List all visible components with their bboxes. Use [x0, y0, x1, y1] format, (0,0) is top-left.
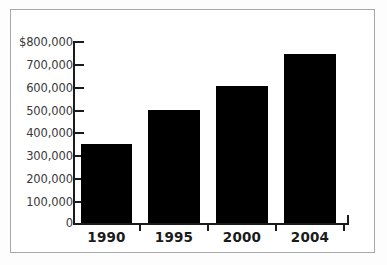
bar-2000 — [216, 86, 268, 223]
y-axis-label-100000: 100,000 — [0, 197, 73, 208]
y-tick-700000 — [75, 64, 84, 66]
y-axis-label-500000: 500,000 — [0, 106, 73, 117]
x-tick-2 — [207, 225, 209, 231]
y-tick-500000 — [75, 110, 84, 112]
y-tick-600000 — [75, 87, 84, 89]
chart-figure: $800,000 700,000 600,000 500,000 400,000… — [0, 0, 387, 265]
y-tick-400000 — [75, 132, 84, 134]
x-tick-1 — [139, 225, 141, 231]
y-axis-label-400000: 400,000 — [0, 128, 73, 139]
bar-chart-plot-area: $800,000 700,000 600,000 500,000 400,000… — [0, 0, 387, 265]
y-axis-label-800000: $800,000 — [0, 37, 73, 48]
x-tick-3 — [275, 225, 277, 231]
y-tick-800000 — [75, 41, 84, 43]
x-tick-4 — [343, 225, 345, 231]
bar-1995 — [148, 110, 200, 223]
bar-2004 — [284, 54, 336, 223]
x-axis-label-2000: 2000 — [216, 229, 268, 245]
y-axis-label-200000: 200,000 — [0, 174, 73, 185]
bar-1990 — [81, 144, 132, 223]
x-axis-label-2004: 2004 — [284, 229, 336, 245]
y-axis-label-0: 0 — [0, 218, 73, 229]
y-axis-label-300000: 300,000 — [0, 151, 73, 162]
y-axis-label-700000: 700,000 — [0, 60, 73, 71]
y-axis-label-600000: 600,000 — [0, 83, 73, 94]
x-axis-label-1990: 1990 — [81, 229, 132, 245]
x-axis-label-1995: 1995 — [148, 229, 200, 245]
x-axis-end-cap — [347, 215, 349, 225]
x-axis-line — [73, 223, 349, 225]
